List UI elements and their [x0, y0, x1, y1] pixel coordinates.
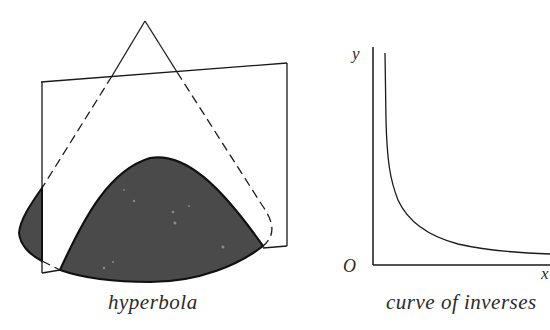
cone-section-diagram	[19, 21, 287, 282]
hyperbola-section	[60, 157, 263, 282]
axes	[373, 47, 550, 265]
y-axis-label: y	[352, 44, 360, 64]
hyperbola-section-sliver	[19, 188, 42, 261]
inverse-curve-graph	[373, 47, 550, 265]
curve-of-inverses-caption: curve of inverses	[386, 290, 537, 315]
x-axis-label: x	[541, 264, 549, 284]
origin-label: O	[343, 256, 356, 277]
inverse-curve	[385, 53, 550, 254]
figure-canvas	[0, 0, 550, 330]
cone-outline	[112, 21, 177, 76]
figure: hyperbola curve of inverses y O x	[0, 0, 550, 330]
hyperbola-caption: hyperbola	[108, 290, 198, 315]
